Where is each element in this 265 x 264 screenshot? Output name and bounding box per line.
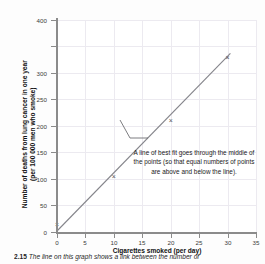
y-axis-title-line2: (per 100 000 men who smoke) — [29, 88, 36, 181]
x-axis-line — [56, 232, 257, 234]
x-tick-label: 25 — [195, 239, 202, 246]
x-tick-label: 20 — [167, 239, 174, 246]
annotation-text: A line of best fit goes through the midd… — [133, 148, 255, 176]
x-tick-label: 15 — [138, 239, 145, 246]
x-axis-tick — [114, 233, 115, 238]
x-tick-label: 5 — [83, 239, 87, 246]
y-tick-label: 100 — [36, 176, 47, 183]
x-axis-tick — [57, 233, 58, 238]
x-axis-tick — [199, 233, 200, 238]
figure-page: × × × × 400 300 250 200 150 100 50 0 — [0, 0, 265, 264]
scatter-chart: × × × × 400 300 250 200 150 100 50 0 — [0, 0, 265, 250]
figure-caption-number: 2.15 — [14, 253, 27, 260]
y-tick-label: 200 — [36, 123, 47, 130]
y-tick-label: 50 — [40, 202, 47, 209]
data-point-marker: × — [110, 173, 117, 180]
x-tick-label: 0 — [55, 239, 59, 246]
y-tick-label: 150 — [36, 149, 47, 156]
x-tick-label: 30 — [224, 239, 231, 246]
x-axis-tick — [142, 233, 143, 238]
y-axis-title: Number of deaths from lung cancer in one… — [21, 39, 37, 229]
y-tick-label: 0 — [43, 229, 47, 236]
x-tick-label: 35 — [252, 239, 259, 246]
x-axis-tick — [85, 233, 86, 238]
figure-caption-text: The line on this graph shows a link betw… — [29, 253, 199, 260]
data-point-marker: × — [224, 54, 231, 61]
y-tick-label: 250 — [36, 96, 47, 103]
gridline-vertical — [256, 20, 257, 232]
x-axis-tick — [171, 233, 172, 238]
data-point-marker: × — [167, 117, 174, 124]
y-tick-label: 400 — [36, 17, 47, 24]
x-tick-label: 10 — [110, 239, 117, 246]
figure-caption: 2.15 The line on this graph shows a link… — [14, 253, 254, 262]
y-tick-label: 300 — [36, 70, 47, 77]
x-axis-tick — [228, 233, 229, 238]
y-axis-title-line1: Number of deaths from lung cancer in one… — [21, 60, 28, 208]
x-axis-tick — [256, 233, 257, 238]
